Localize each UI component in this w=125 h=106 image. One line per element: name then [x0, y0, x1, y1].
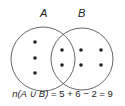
dot-a-only — [33, 40, 37, 44]
dot-b-only — [79, 48, 83, 52]
dot-a-only — [33, 56, 37, 60]
dot-intersection — [60, 63, 64, 67]
formula-rhs: = 5 + 6 − 2 = 9 — [51, 88, 113, 99]
set-a-circle — [11, 27, 75, 91]
dot-a-only — [33, 71, 37, 75]
set-b-label: B — [78, 7, 85, 19]
dot-b-only — [99, 48, 103, 52]
dot-b-only — [99, 63, 103, 67]
formula-lhs: n(A ∪ B) — [12, 88, 48, 99]
element-dots — [33, 40, 103, 75]
dot-b-only — [79, 63, 83, 67]
set-b-circle — [51, 28, 113, 90]
union-formula: n(A ∪ B) = 5 + 6 − 2 = 9 — [0, 88, 125, 99]
set-a-label: A — [39, 7, 47, 19]
dot-intersection — [60, 48, 64, 52]
